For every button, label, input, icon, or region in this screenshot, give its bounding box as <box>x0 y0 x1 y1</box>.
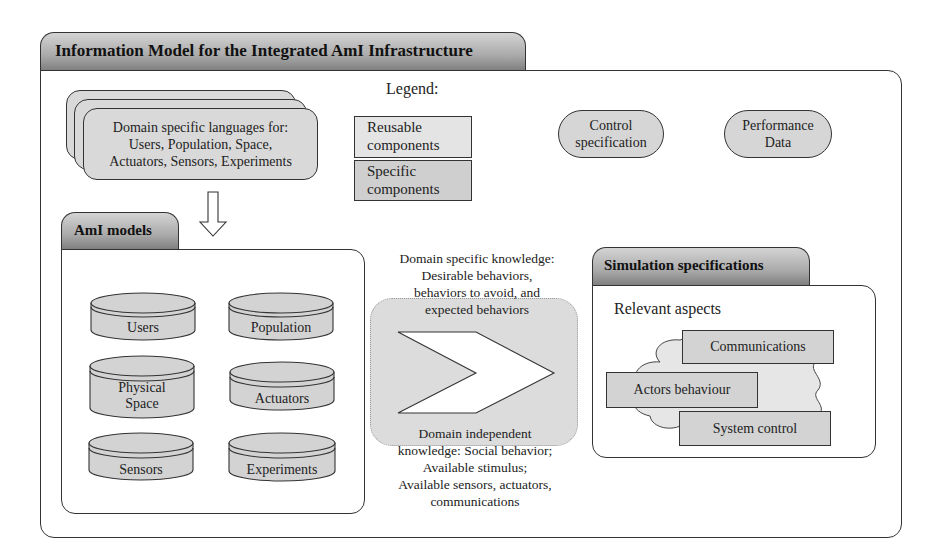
aspect-communications: Communications <box>682 330 834 364</box>
aspect-system-control-label: System control <box>713 421 797 437</box>
aspect-communications-label: Communications <box>710 339 806 355</box>
aspect-system-control: System control <box>679 411 831 446</box>
aspect-actors-behaviour-label: Actors behaviour <box>634 382 731 398</box>
aspect-actors-behaviour: Actors behaviour <box>606 372 758 408</box>
cloud-layer <box>0 0 940 560</box>
